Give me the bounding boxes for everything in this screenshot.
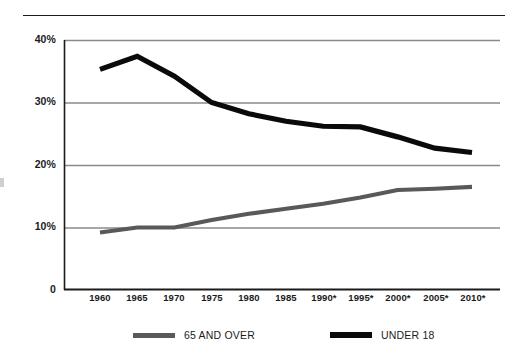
series-line-under-18 [100, 56, 472, 152]
legend-swatch-65-and-over [133, 333, 175, 338]
y-gridlines [64, 41, 500, 229]
legend-entry-65-and-over: 65 AND OVER [133, 328, 255, 342]
x-tick-label-2005: 2005* [416, 292, 456, 303]
x-tick-label-1980: 1980 [229, 292, 269, 303]
series-line-65-and-over [100, 187, 472, 233]
y-tick-label-1: 30% [22, 95, 56, 107]
chart-legend: 65 AND OVER UNDER 18 [0, 326, 530, 346]
legend-label-65-and-over: 65 AND OVER [184, 329, 255, 341]
y-tick-label-3: 10% [22, 220, 56, 232]
legend-entry-under-18: UNDER 18 [330, 328, 435, 342]
x-tick-label-1995: 1995* [341, 292, 381, 303]
x-tick-label-1975: 1975 [192, 292, 232, 303]
population-age-share-line-chart: 40% 30% 20% 10% 0 1960 1965 1970 1975 19… [0, 0, 530, 353]
y-tick-label-2: 20% [22, 158, 56, 170]
x-tick-label-1985: 1985 [266, 292, 306, 303]
x-tick-label-1970: 1970 [154, 292, 194, 303]
y-tick-label-0: 40% [22, 33, 56, 45]
x-tick-label-2000: 2000* [378, 292, 418, 303]
x-tick-label-1960: 1960 [80, 292, 120, 303]
y-tick-label-4: 0 [22, 283, 56, 295]
x-tick-label-1990: 1990* [304, 292, 344, 303]
x-tick-label-2010: 2010* [453, 292, 493, 303]
x-tick-label-1965: 1965 [117, 292, 157, 303]
legend-swatch-under-18 [330, 332, 372, 338]
legend-label-under-18: UNDER 18 [381, 329, 435, 341]
data-series-layer [100, 56, 472, 232]
